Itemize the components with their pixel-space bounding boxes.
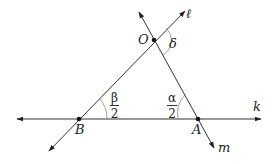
label-point-B: B [75, 123, 85, 136]
label-point-A: A [192, 123, 201, 136]
point-A [196, 117, 201, 122]
line-m [139, 12, 214, 148]
angle-arc-alpha-half [177, 95, 185, 119]
beta-denominator: 2 [111, 106, 119, 120]
point-O [152, 38, 157, 43]
geometry-diagram: O B A ℓ k m δ β 2 α 2 [0, 0, 274, 164]
line-l [49, 11, 185, 151]
label-point-O: O [138, 33, 149, 46]
label-line-m: m [218, 141, 230, 154]
label-line-l: ℓ [186, 7, 191, 20]
angle-arc-beta-half [99, 98, 107, 119]
beta-numerator: β [110, 92, 119, 106]
label-angle-beta-half: β 2 [110, 92, 119, 120]
alpha-denominator: 2 [168, 106, 176, 120]
label-angle-delta: δ [169, 37, 177, 50]
alpha-numerator: α [167, 92, 177, 106]
label-line-k: k [253, 100, 261, 113]
diagram-lines [0, 0, 274, 164]
point-B [77, 117, 82, 122]
label-angle-alpha-half: α 2 [167, 92, 177, 120]
